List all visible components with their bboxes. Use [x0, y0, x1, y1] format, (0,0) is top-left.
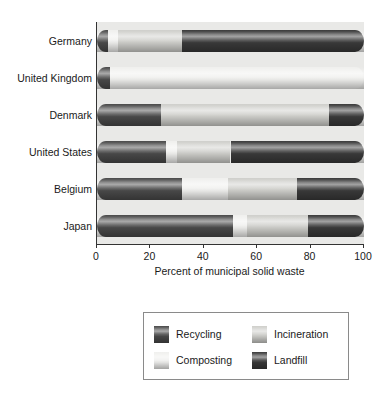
legend-label: Landfill: [274, 354, 307, 366]
bar-segment-composting: [182, 178, 227, 200]
bar-segment-landfill: [308, 215, 364, 237]
legend-label: Incineration: [274, 328, 328, 340]
y-axis-label-denmark: Denmark: [0, 104, 92, 126]
x-tick-label-20: 20: [144, 250, 156, 262]
bar-segment-recycling: [97, 30, 108, 52]
x-tick-100: [363, 244, 364, 248]
y-axis-category-labels: GermanyUnited KingdomDenmarkUnited State…: [0, 22, 92, 244]
bar-segment-incineration: [228, 178, 297, 200]
bar-segment-composting: [166, 141, 177, 163]
bar-segment-composting: [233, 215, 246, 237]
x-axis-title: Percent of municipal solid waste: [96, 265, 363, 277]
legend-grid: RecyclingIncinerationCompostingLandfill: [154, 321, 342, 373]
incineration-swatch: [252, 326, 267, 343]
bar-row: [97, 30, 364, 52]
x-tick-label-100: 100: [354, 250, 372, 262]
bar-segment-incineration: [118, 30, 182, 52]
x-tick-label-40: 40: [197, 250, 209, 262]
legend-label: Composting: [176, 354, 232, 366]
bar-segment-incineration: [177, 141, 230, 163]
legend-label: Recycling: [176, 328, 222, 340]
bar-row: [97, 178, 364, 200]
bars-container: [97, 22, 364, 244]
legend-item-composting[interactable]: Composting: [154, 352, 252, 369]
x-tick-40: [203, 244, 204, 248]
y-axis-label-united-states: United States: [0, 141, 92, 163]
y-axis-label-belgium: Belgium: [0, 178, 92, 200]
landfill-swatch: [252, 352, 267, 369]
bar-segment-incineration: [247, 215, 308, 237]
stacked-bar-chart: GermanyUnited KingdomDenmarkUnited State…: [0, 0, 385, 290]
bar-segment-recycling: [97, 67, 110, 89]
x-tick-80: [310, 244, 311, 248]
recycling-swatch: [154, 326, 169, 343]
x-tick-label-80: 80: [304, 250, 316, 262]
bar-segment-landfill: [182, 30, 364, 52]
bar-segment-recycling: [97, 178, 182, 200]
x-tick-0: [96, 244, 97, 248]
bar-segment-landfill: [231, 141, 365, 163]
legend-item-incineration[interactable]: Incineration: [252, 326, 342, 343]
bar-segment-composting: [108, 30, 119, 52]
x-tick-label-0: 0: [93, 250, 99, 262]
bar-segment-landfill: [329, 104, 364, 126]
x-axis-line: [96, 244, 364, 245]
bar-segment-incineration: [161, 104, 329, 126]
bar-segment-recycling: [97, 141, 166, 163]
y-axis-label-united-kingdom: United Kingdom: [0, 67, 92, 89]
legend-item-landfill[interactable]: Landfill: [252, 352, 342, 369]
x-tick-60: [256, 244, 257, 248]
plot-area: [96, 22, 364, 244]
y-axis-label-japan: Japan: [0, 215, 92, 237]
bar-segment-recycling: [97, 104, 161, 126]
x-tick-label-60: 60: [250, 250, 262, 262]
bar-segment-composting: [110, 67, 364, 89]
bar-row: [97, 141, 364, 163]
bar-row: [97, 104, 364, 126]
bar-segment-landfill: [297, 178, 364, 200]
legend-item-recycling[interactable]: Recycling: [154, 326, 252, 343]
bar-row: [97, 215, 364, 237]
bar-segment-recycling: [97, 215, 233, 237]
y-axis-label-germany: Germany: [0, 30, 92, 52]
x-tick-20: [149, 244, 150, 248]
legend: RecyclingIncinerationCompostingLandfill: [143, 312, 349, 380]
bar-row: [97, 67, 364, 89]
composting-swatch: [154, 352, 169, 369]
